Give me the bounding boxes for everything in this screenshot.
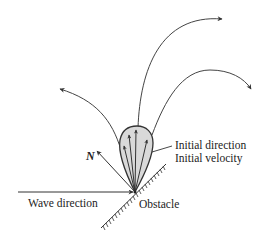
- wave-direction-label: Wave direction: [28, 197, 98, 209]
- trajectory-curves: [60, 19, 251, 150]
- leader-line: [152, 146, 172, 152]
- trajectory-right: [152, 70, 251, 135]
- obstacle-label: Obstacle: [139, 198, 179, 210]
- diagram-canvas: N Wave direction: [0, 0, 266, 237]
- initial-direction-label: Initial direction: [175, 139, 246, 151]
- normal-label: N: [85, 149, 96, 163]
- trajectory-tall: [138, 19, 222, 128]
- impact-point: [134, 191, 137, 194]
- initial-velocity-label: Initial velocity: [175, 152, 243, 165]
- trajectory-left: [60, 89, 121, 150]
